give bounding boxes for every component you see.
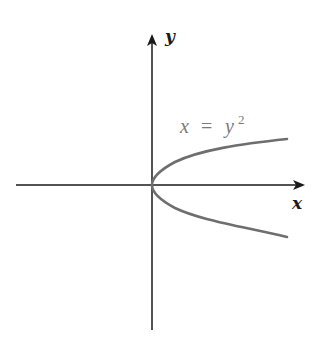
curve-label-rhs: y <box>223 115 234 138</box>
y-axis-label: y <box>164 26 176 46</box>
parabola-curve <box>152 139 287 237</box>
curve-label-eq: = <box>201 115 212 137</box>
parabola-diagram: y x x = y 2 <box>0 0 326 337</box>
curve-label-lhs: x <box>179 115 189 137</box>
x-axis-label: x <box>291 193 303 213</box>
curve-label-exponent: 2 <box>238 112 245 127</box>
